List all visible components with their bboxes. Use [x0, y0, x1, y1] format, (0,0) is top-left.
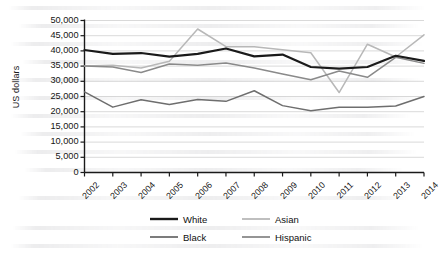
- series-line-white: [85, 48, 425, 68]
- legend-swatch-hispanic: [242, 233, 270, 241]
- legend-item-white: White: [150, 214, 242, 225]
- legend-label-hispanic: Hispanic: [275, 232, 311, 243]
- legend-item-black: Black: [150, 232, 242, 243]
- legend-label-black: Black: [183, 232, 206, 243]
- legend-swatch-asian: [242, 215, 270, 223]
- series-line-asian: [85, 29, 425, 93]
- axis-lines: [85, 20, 425, 173]
- axis-ticks: [81, 21, 425, 177]
- legend-swatch-black: [150, 233, 178, 241]
- legend-label-asian: Asian: [275, 214, 299, 225]
- legend-swatch-white: [150, 215, 178, 223]
- chart-legend: White Asian Black Hispanic: [150, 210, 360, 246]
- legend-item-asian: Asian: [242, 214, 342, 225]
- data-series-lines: [85, 29, 425, 111]
- legend-label-white: White: [183, 214, 207, 225]
- series-line-black: [85, 91, 425, 111]
- gridlines: [85, 21, 425, 158]
- series-line-hispanic: [85, 57, 425, 80]
- legend-item-hispanic: Hispanic: [242, 232, 342, 243]
